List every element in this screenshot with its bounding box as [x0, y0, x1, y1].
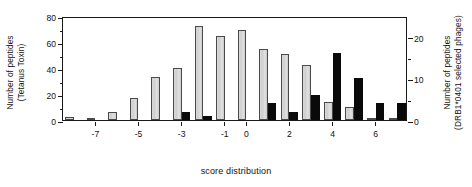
- x-axis-tick-label: 0: [244, 129, 249, 139]
- y-axis-left-tick-label: 40: [46, 65, 56, 75]
- bar-tetanus-toxin: [195, 26, 204, 120]
- x-axis-tick: [95, 122, 96, 126]
- y-axis-right-tick-label: 0: [414, 117, 419, 127]
- bar-drb1-0401-phages: [311, 95, 320, 120]
- x-axis-tick-label: -1: [221, 129, 229, 139]
- y-axis-left-minor-tick: [60, 83, 63, 84]
- bar-tetanus-toxin: [87, 118, 96, 120]
- y-axis-left-minor-tick: [60, 109, 63, 110]
- bar-tetanus-toxin: [173, 68, 182, 120]
- bar-drb1-0401-phages: [268, 103, 277, 120]
- bar-tetanus-toxin: [130, 98, 139, 120]
- y-axis-left-tick: [58, 44, 63, 45]
- y-axis-right-title: Number of peptides (DRB1*0401 selected p…: [442, 13, 463, 133]
- x-axis-tick-label: -3: [178, 129, 186, 139]
- x-axis-tick-label: -5: [135, 129, 143, 139]
- x-axis-tick-label: 2: [287, 129, 292, 139]
- y-axis-left-tick: [58, 122, 63, 123]
- bar-drb1-0401-phages: [182, 112, 191, 120]
- x-axis-tick: [289, 122, 290, 126]
- y-axis-right-tick: [408, 38, 413, 39]
- y-axis-right-tick-label: 20: [414, 34, 424, 44]
- x-axis-tick-label: 6: [373, 129, 378, 139]
- y-axis-right-title-line1: Number of peptides: [442, 13, 453, 133]
- y-axis-left-title: Number of peptides (Tetanus Toxin): [5, 13, 26, 133]
- bar-tetanus-toxin: [345, 107, 354, 120]
- y-axis-left-tick-label: 0: [51, 117, 56, 127]
- y-axis-right-tick-label: 10: [414, 75, 424, 85]
- bar-drb1-0401-phages: [397, 103, 406, 120]
- bar-tetanus-toxin: [65, 117, 74, 120]
- x-axis-tick-label: -7: [92, 129, 100, 139]
- y-axis-left-title-line2: (Tetanus Toxin): [15, 13, 26, 133]
- bar-tetanus-toxin: [238, 30, 247, 120]
- bar-drb1-0401-phages: [354, 78, 363, 120]
- y-axis-right-minor-tick: [408, 59, 411, 60]
- bar-tetanus-toxin: [367, 118, 376, 120]
- bar-tetanus-toxin: [324, 102, 333, 120]
- y-axis-left-minor-tick: [60, 57, 63, 58]
- figure-container: Number of peptides (Tetanus Toxin) Numbe…: [0, 0, 472, 187]
- y-axis-right-tick: [408, 80, 413, 81]
- bar-tetanus-toxin: [216, 36, 225, 121]
- y-axis-right-title-line2: (DRB1*0401 selected phages): [452, 13, 463, 133]
- y-axis-left-tick: [58, 96, 63, 97]
- x-axis-tick: [138, 122, 139, 126]
- bar-tetanus-toxin: [389, 118, 398, 120]
- bar-drb1-0401-phages: [289, 112, 298, 120]
- y-axis-right-tick: [408, 122, 413, 123]
- y-axis-right-minor-tick: [408, 101, 411, 102]
- x-axis-tick: [224, 122, 225, 126]
- y-axis-left-minor-tick: [60, 31, 63, 32]
- x-axis-tick: [332, 122, 333, 126]
- bar-tetanus-toxin: [281, 54, 290, 120]
- x-axis-tick: [181, 122, 182, 126]
- x-axis-tick-label: 4: [330, 129, 335, 139]
- y-axis-left-title-line1: Number of peptides: [5, 13, 16, 133]
- x-axis-tick: [246, 122, 247, 126]
- bar-drb1-0401-phages: [333, 53, 342, 120]
- y-axis-left-tick: [58, 18, 63, 19]
- y-axis-left-tick: [58, 70, 63, 71]
- bar-tetanus-toxin: [151, 77, 160, 120]
- bar-tetanus-toxin: [108, 112, 117, 120]
- plot-area: 02040608001020-7-5-3-10246: [62, 17, 407, 121]
- bar-drb1-0401-phages: [203, 116, 212, 120]
- x-axis-tick: [375, 122, 376, 126]
- y-axis-left-tick-label: 80: [46, 13, 56, 23]
- y-axis-left-tick-label: 60: [46, 39, 56, 49]
- bar-tetanus-toxin: [259, 49, 268, 121]
- bar-tetanus-toxin: [302, 65, 311, 120]
- x-axis-title: score distribution: [0, 166, 472, 176]
- bar-drb1-0401-phages: [376, 103, 385, 120]
- y-axis-left-tick-label: 20: [46, 91, 56, 101]
